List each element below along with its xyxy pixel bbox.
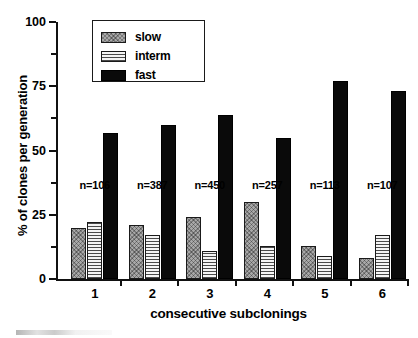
bar-fast-3 xyxy=(218,115,233,279)
legend-item-interm: interm xyxy=(101,49,170,63)
legend-swatch-fast xyxy=(101,70,126,81)
annotation-n-4: n=257 xyxy=(252,179,283,191)
bar-slow-4 xyxy=(244,202,259,279)
bar-fast-1 xyxy=(103,133,118,279)
x-axis-title: consecutive subclonings xyxy=(56,306,401,321)
chart-legend: slowintermfast xyxy=(92,20,205,82)
x-tick-sep-3 xyxy=(235,279,237,286)
y-tick-label-100: 100 xyxy=(25,15,46,29)
y-tick-label-75: 75 xyxy=(32,79,46,93)
annotation-n-3: n=450 xyxy=(195,179,226,191)
y-tick-minor-12.5 xyxy=(51,246,56,248)
y-tick-75 xyxy=(49,85,56,87)
bar-interm-3 xyxy=(202,251,217,279)
bar-interm-2 xyxy=(145,235,160,279)
legend-label-fast: fast xyxy=(135,68,156,82)
x-tick-sep-1 xyxy=(120,279,122,286)
annotation-n-5: n=113 xyxy=(310,179,340,191)
y-axis-line xyxy=(56,22,58,280)
y-tick-minor-37.5 xyxy=(51,182,56,184)
bar-interm-6 xyxy=(375,235,390,279)
bar-chart-figure: % of clones per generation consecutive s… xyxy=(0,0,418,338)
x-axis-line xyxy=(56,279,407,281)
bar-fast-4 xyxy=(276,138,291,279)
y-axis-title: % of clones per generation xyxy=(15,31,30,281)
x-tick-sep-5 xyxy=(350,279,352,286)
x-tick-label-1: 1 xyxy=(91,286,98,301)
annotation-n-2: n=387 xyxy=(137,179,168,191)
legend-label-slow: slow xyxy=(135,30,161,44)
bar-fast-2 xyxy=(161,125,176,279)
bar-slow-2 xyxy=(129,225,144,279)
bar-interm-1 xyxy=(87,222,102,279)
x-tick-label-5: 5 xyxy=(321,286,328,301)
x-tick-label-4: 4 xyxy=(264,286,271,301)
legend-swatch-slow xyxy=(101,32,126,43)
y-tick-label-0: 0 xyxy=(39,272,46,286)
bar-slow-3 xyxy=(186,217,201,279)
annotation-n-6: n=107 xyxy=(367,179,398,191)
bar-interm-4 xyxy=(260,246,275,279)
bar-slow-6 xyxy=(359,258,374,279)
y-tick-100 xyxy=(49,21,56,23)
x-tick-label-2: 2 xyxy=(149,286,156,301)
x-tick-sep-2 xyxy=(177,279,179,286)
x-tick-label-6: 6 xyxy=(379,286,386,301)
y-tick-label-50: 50 xyxy=(32,144,46,158)
legend-swatch-interm xyxy=(101,51,126,62)
y-tick-50 xyxy=(49,150,56,152)
y-tick-label-25: 25 xyxy=(32,208,46,222)
annotation-n-1: n=106 xyxy=(80,179,111,191)
y-tick-25 xyxy=(49,214,56,216)
legend-label-interm: interm xyxy=(135,49,170,63)
legend-item-fast: fast xyxy=(101,68,156,82)
bar-interm-5 xyxy=(317,256,332,279)
x-tick-sep-end xyxy=(407,279,409,286)
bar-slow-5 xyxy=(301,246,316,279)
bar-slow-1 xyxy=(71,228,86,279)
y-tick-minor-62.5 xyxy=(51,117,56,119)
x-tick-sep-4 xyxy=(292,279,294,286)
scan-artifact xyxy=(16,330,112,335)
y-tick-0 xyxy=(49,278,56,280)
legend-item-slow: slow xyxy=(101,30,161,44)
x-tick-label-3: 3 xyxy=(206,286,213,301)
y-tick-minor-87.5 xyxy=(51,53,56,55)
